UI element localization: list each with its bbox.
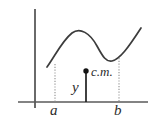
figure-container: a b y c.m. (0, 0, 153, 129)
center-of-mass-dot (83, 68, 88, 73)
y-distance-label: y (72, 80, 79, 95)
x-tick-label-b: b (114, 103, 122, 118)
function-curve (47, 28, 141, 67)
center-of-mass-label: c.m. (91, 65, 113, 78)
center-of-mass-diagram (0, 0, 153, 129)
x-tick-label-a: a (50, 103, 58, 118)
